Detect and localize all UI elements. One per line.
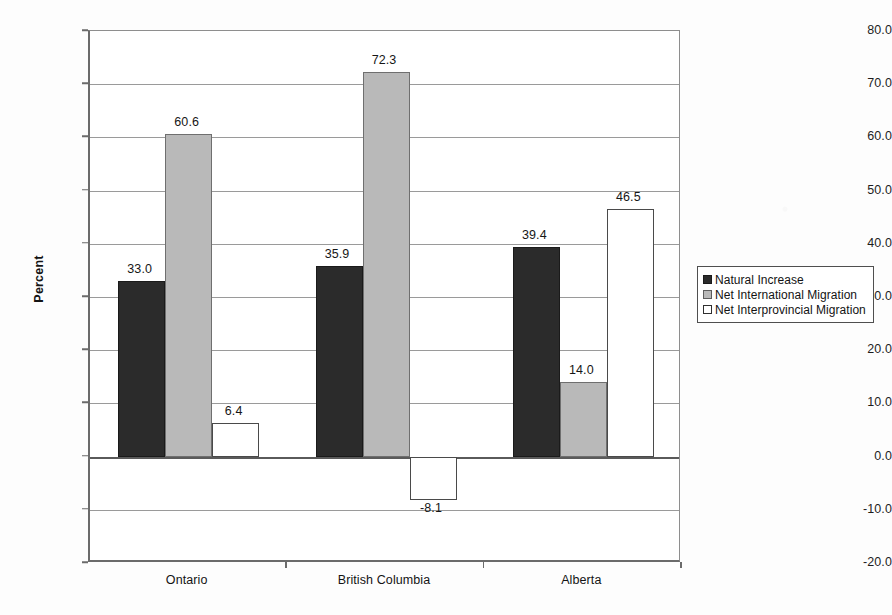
bar: [607, 209, 654, 456]
legend-item: Natural Increase: [703, 272, 866, 287]
legend-label: Net Interprovincial Migration: [715, 303, 866, 317]
chart-canvas: Percent 80.070.060.050.040.030.020.010.0…: [0, 0, 892, 615]
bar: [118, 281, 165, 457]
y-tick-label: 60.0: [820, 129, 892, 143]
bar: [513, 247, 560, 457]
bar-value-label: 6.4: [198, 404, 269, 418]
legend-label: Natural Increase: [715, 273, 804, 287]
zero-line: [90, 457, 679, 459]
bar-value-label: 46.5: [593, 190, 664, 204]
x-category-label: British Columbia: [338, 573, 431, 587]
legend-item: Net International Migration: [703, 287, 866, 302]
bar-value-label: 33.0: [104, 262, 175, 276]
chart-legend: Natural IncreaseNet International Migrat…: [697, 266, 874, 323]
x-tick-mark: [483, 562, 485, 568]
y-tick-label: 70.0: [820, 76, 892, 90]
y-tick-label: -10.0: [820, 502, 892, 516]
bar-value-label: -8.1: [396, 501, 467, 515]
bar: [212, 423, 259, 457]
bar: [560, 382, 607, 456]
y-tick-label: 40.0: [820, 236, 892, 250]
y-axis-title: Percent: [32, 234, 46, 324]
y-tick-label: 0.0: [820, 449, 892, 463]
y-tick-label: 20.0: [820, 342, 892, 356]
legend-swatch-icon: [703, 290, 712, 299]
legend-swatch-icon: [703, 305, 712, 314]
legend-label: Net International Migration: [715, 288, 857, 302]
y-tick-label: 10.0: [820, 395, 892, 409]
bar: [363, 72, 410, 457]
bar-value-label: 60.6: [151, 115, 222, 129]
bar: [410, 457, 457, 500]
y-tick-label: -20.0: [820, 555, 892, 569]
legend-swatch-icon: [703, 275, 712, 284]
x-category-label: Ontario: [166, 573, 208, 587]
bar-value-label: 35.9: [302, 247, 373, 261]
x-tick-mark: [285, 562, 287, 568]
gridline: [90, 510, 679, 511]
bar-value-label: 72.3: [349, 53, 420, 67]
y-tick-label: 50.0: [820, 183, 892, 197]
y-tick-label: 80.0: [820, 23, 892, 37]
x-category-label: Alberta: [561, 573, 601, 587]
bar-value-label: 14.0: [546, 363, 617, 377]
x-tick-mark: [680, 562, 682, 568]
bar-value-label: 39.4: [499, 228, 570, 242]
legend-item: Net Interprovincial Migration: [703, 302, 866, 317]
bar: [316, 266, 363, 457]
plot-area: [88, 30, 680, 562]
